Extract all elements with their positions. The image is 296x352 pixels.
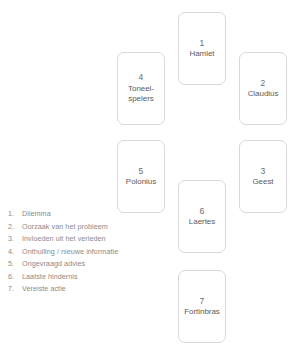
legend-item-number: 3. bbox=[8, 235, 22, 243]
card-label: Fortinbras bbox=[182, 307, 222, 318]
card-spread-diagram: 1 Hamlet 2 Claudius 3 Geest 4 Toneel-spe… bbox=[0, 0, 296, 352]
legend-item: 6. Laatste hindernis bbox=[8, 273, 148, 281]
card-number: 2 bbox=[261, 78, 266, 89]
legend-item-number: 5. bbox=[8, 260, 22, 268]
legend-item-label: Dilemma bbox=[22, 210, 148, 218]
card-number: 7 bbox=[200, 296, 205, 307]
legend-item-label: Invloeden uit het verleden bbox=[22, 235, 148, 243]
card-label: Geest bbox=[250, 177, 275, 188]
legend-item-label: Vereiste actie bbox=[22, 285, 148, 293]
spread-card-3[interactable]: 3 Geest bbox=[239, 140, 287, 213]
legend-item-number: 7. bbox=[8, 285, 22, 293]
legend-item-number: 2. bbox=[8, 223, 22, 231]
card-number: 5 bbox=[139, 166, 144, 177]
legend-item: 7. Vereiste actie bbox=[8, 285, 148, 293]
legend-item: 2. Oorzaak van het probleem bbox=[8, 223, 148, 231]
legend-item-label: Onthulling / nieuwe informatie bbox=[22, 248, 148, 256]
spread-card-4[interactable]: 4 Toneel-spelers bbox=[117, 52, 165, 125]
card-label: Hamlet bbox=[187, 49, 216, 60]
legend-item: 3. Invloeden uit het verleden bbox=[8, 235, 148, 243]
legend-item: 5. Ongevraagd advies bbox=[8, 260, 148, 268]
spread-card-5[interactable]: 5 Polonius bbox=[117, 140, 165, 213]
spread-card-6[interactable]: 6 Laertes bbox=[178, 180, 226, 253]
legend-item-number: 4. bbox=[8, 248, 22, 256]
spread-card-1[interactable]: 1 Hamlet bbox=[178, 12, 226, 85]
card-number: 1 bbox=[200, 38, 205, 49]
spread-card-2[interactable]: 2 Claudius bbox=[239, 52, 287, 125]
legend-item-label: Ongevraagd advies bbox=[22, 260, 148, 268]
card-number: 6 bbox=[200, 206, 205, 217]
legend-item: 4. Onthulling / nieuwe informatie bbox=[8, 248, 148, 256]
legend-item: 1. Dilemma bbox=[8, 210, 148, 218]
legend-item-label: Laatste hindernis bbox=[22, 273, 148, 281]
card-label: Claudius bbox=[246, 89, 281, 100]
legend-item-number: 6. bbox=[8, 273, 22, 281]
legend: 1. Dilemma 2. Oorzaak van het probleem 3… bbox=[8, 210, 148, 298]
card-number: 3 bbox=[261, 166, 266, 177]
spread-card-7[interactable]: 7 Fortinbras bbox=[178, 270, 226, 343]
card-number: 4 bbox=[139, 72, 144, 83]
legend-item-label: Oorzaak van het probleem bbox=[22, 223, 148, 231]
card-label: Polonius bbox=[124, 177, 158, 188]
legend-item-number: 1. bbox=[8, 210, 22, 218]
card-label: Laertes bbox=[187, 217, 217, 228]
card-label: Toneel-spelers bbox=[118, 84, 164, 105]
